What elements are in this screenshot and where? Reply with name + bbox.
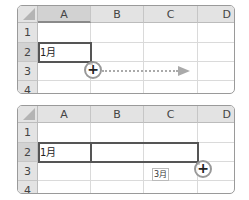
cell-b4[interactable]	[91, 81, 144, 94]
row-header-1[interactable]: 1	[18, 123, 38, 143]
cell-d1[interactable]	[198, 123, 235, 143]
fill-cursor-icon: +	[194, 160, 212, 178]
column-header-c[interactable]: C	[144, 106, 198, 123]
cell-a1[interactable]	[38, 23, 91, 43]
cell-a1[interactable]	[38, 123, 91, 143]
column-header-b[interactable]: B	[91, 106, 144, 123]
spreadsheet-after-drag: A B C D 1 2 3 4 1月 3月 +	[17, 105, 235, 194]
cell-b3[interactable]	[91, 162, 144, 181]
column-header-d[interactable]: D	[198, 106, 235, 123]
row-header-3[interactable]: 3	[18, 62, 38, 81]
column-header-c[interactable]: C	[144, 6, 198, 23]
cell-d4[interactable]	[198, 81, 235, 94]
cell-a4[interactable]	[38, 181, 91, 194]
fill-range-selection-a2-c2	[38, 142, 199, 163]
select-all-corner[interactable]	[18, 6, 38, 23]
drag-direction-arrow-icon	[178, 66, 190, 76]
cell-d1[interactable]	[198, 23, 235, 43]
cell-a4[interactable]	[38, 81, 91, 94]
column-header-d[interactable]: D	[198, 6, 235, 23]
fill-cursor-icon: +	[84, 61, 102, 79]
column-header-b[interactable]: B	[91, 6, 144, 23]
row-header-2[interactable]: 2	[18, 143, 38, 162]
select-all-corner[interactable]	[18, 106, 38, 123]
spreadsheet-before-drag: A B C D 1 2 3 4 1月 +	[17, 5, 235, 94]
row-header-2[interactable]: 2	[18, 43, 38, 62]
cell-c4[interactable]	[144, 181, 198, 194]
cell-b1[interactable]	[91, 23, 144, 43]
cell-c1[interactable]	[144, 23, 198, 43]
cell-b2[interactable]	[91, 43, 144, 62]
row-header-4[interactable]: 4	[18, 81, 38, 94]
cell-b4[interactable]	[91, 181, 144, 194]
row-header-4[interactable]: 4	[18, 181, 38, 194]
row-header-3[interactable]: 3	[18, 162, 38, 181]
cell-d3[interactable]	[198, 62, 235, 81]
cell-c2[interactable]	[144, 43, 198, 62]
column-header-a[interactable]: A	[38, 6, 91, 23]
cell-c4[interactable]	[144, 81, 198, 94]
column-header-a[interactable]: A	[38, 106, 91, 123]
row-header-1[interactable]: 1	[18, 23, 38, 43]
cell-a3[interactable]	[38, 62, 91, 81]
drag-path-dotted-line	[102, 70, 178, 72]
cell-d2[interactable]	[198, 43, 235, 62]
cell-d4[interactable]	[198, 181, 235, 194]
cell-c1[interactable]	[144, 123, 198, 143]
cell-selection-a2	[38, 42, 92, 63]
cell-a3[interactable]	[38, 162, 91, 181]
cell-b1[interactable]	[91, 123, 144, 143]
autofill-preview-tooltip: 3月	[152, 168, 169, 181]
